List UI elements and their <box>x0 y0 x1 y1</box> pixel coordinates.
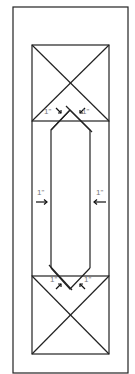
label-top-right: 1" <box>82 107 89 116</box>
mid-right-arrow-icon <box>94 200 106 205</box>
label-bottom-left: 1" <box>50 275 57 284</box>
bottom-right-arrow-icon <box>80 284 85 289</box>
top-left-arrow-icon <box>56 108 61 113</box>
outer-frame <box>13 7 128 373</box>
label-top-left: 1" <box>44 107 51 116</box>
center-slot <box>32 106 109 290</box>
label-bottom-right: 1" <box>84 275 91 284</box>
frame-diagram: 1" 1" 1" 1" 1" 1" <box>0 0 135 374</box>
bottom-left-arrow-icon <box>56 284 61 289</box>
label-mid-right: 1" <box>96 188 103 197</box>
mid-left-arrow-icon <box>36 200 47 205</box>
label-mid-left: 1" <box>37 188 44 197</box>
